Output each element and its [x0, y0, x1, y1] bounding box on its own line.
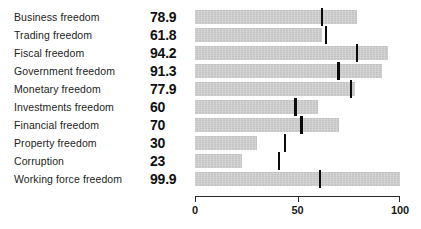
- row-label: Fiscal freedom: [14, 44, 146, 62]
- bar-texture: [195, 46, 388, 60]
- chart-row: Monetary freedom77.9: [0, 80, 421, 98]
- horizontal-bar-chart: Business freedom78.9Trading freedom61.8F…: [0, 0, 421, 229]
- row-label: Investments freedom: [14, 98, 146, 116]
- value-bar: [195, 10, 357, 24]
- value-bar: [195, 172, 400, 186]
- row-value: 91.3: [150, 62, 194, 80]
- row-label: Property freedom: [14, 134, 146, 152]
- row-value: 99.9: [150, 170, 194, 188]
- reference-marker: [325, 26, 328, 44]
- row-plot: [195, 8, 400, 26]
- row-label: Trading freedom: [14, 26, 146, 44]
- row-value: 94.2: [150, 44, 194, 62]
- bar-texture: [195, 118, 339, 132]
- bar-texture: [195, 172, 400, 186]
- chart-row: Property freedom30: [0, 134, 421, 152]
- axis-tick-label: 50: [278, 204, 318, 216]
- row-label: Government freedom: [14, 62, 146, 80]
- row-plot: [195, 98, 400, 116]
- row-value: 61.8: [150, 26, 194, 44]
- row-value: 78.9: [150, 8, 194, 26]
- bar-texture: [195, 28, 322, 42]
- bar-texture: [195, 136, 257, 150]
- value-bar: [195, 28, 322, 42]
- row-value: 30: [150, 134, 194, 152]
- axis-tick: [195, 196, 196, 202]
- row-label: Working force freedom: [14, 170, 146, 188]
- row-plot: [195, 80, 400, 98]
- reference-marker: [300, 116, 303, 134]
- bar-texture: [195, 100, 318, 114]
- row-plot: [195, 44, 400, 62]
- row-label: Monetary freedom: [14, 80, 146, 98]
- chart-row: Working force freedom99.9: [0, 170, 421, 188]
- reference-marker: [278, 152, 281, 170]
- row-plot: [195, 134, 400, 152]
- bar-texture: [195, 64, 382, 78]
- reference-marker: [319, 170, 322, 188]
- row-label: Corruption: [14, 152, 146, 170]
- reference-marker: [294, 98, 297, 116]
- reference-marker: [350, 80, 353, 98]
- bar-texture: [195, 10, 357, 24]
- chart-row: Trading freedom61.8: [0, 26, 421, 44]
- reference-marker: [337, 62, 340, 80]
- value-bar: [195, 46, 388, 60]
- row-value: 23: [150, 152, 194, 170]
- row-label: Business freedom: [14, 8, 146, 26]
- value-bar: [195, 118, 339, 132]
- chart-row: Investments freedom60: [0, 98, 421, 116]
- axis-tick: [298, 196, 299, 202]
- bar-texture: [195, 154, 242, 168]
- row-plot: [195, 170, 400, 188]
- chart-row: Corruption23: [0, 152, 421, 170]
- row-plot: [195, 116, 400, 134]
- value-bar: [195, 82, 355, 96]
- value-bar: [195, 64, 382, 78]
- row-plot: [195, 62, 400, 80]
- value-bar: [195, 100, 318, 114]
- chart-row: Fiscal freedom94.2: [0, 44, 421, 62]
- row-value: 60: [150, 98, 194, 116]
- axis-tick-label: 100: [380, 204, 420, 216]
- row-value: 77.9: [150, 80, 194, 98]
- row-plot: [195, 152, 400, 170]
- bar-texture: [195, 82, 355, 96]
- value-bar: [195, 154, 242, 168]
- reference-marker: [284, 134, 287, 152]
- chart-row: Financial freedom70: [0, 116, 421, 134]
- axis-tick: [399, 196, 400, 202]
- row-value: 70: [150, 116, 194, 134]
- chart-row: Business freedom78.9: [0, 8, 421, 26]
- row-plot: [195, 26, 400, 44]
- reference-marker: [321, 8, 324, 26]
- x-axis: 050100: [195, 196, 400, 226]
- value-bar: [195, 136, 257, 150]
- row-label: Financial freedom: [14, 116, 146, 134]
- chart-row: Government freedom91.3: [0, 62, 421, 80]
- axis-tick-label: 0: [175, 204, 215, 216]
- reference-marker: [356, 44, 359, 62]
